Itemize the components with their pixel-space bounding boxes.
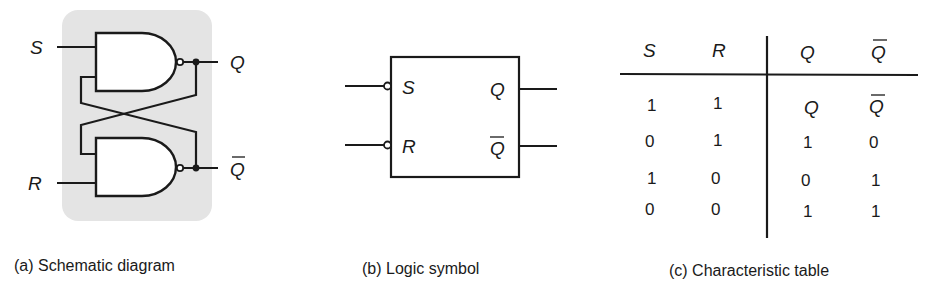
nand-gate-bottom — [96, 138, 176, 196]
q-pin-label: Q — [490, 79, 505, 100]
caption-logic-symbol: (b) Logic symbol — [362, 260, 479, 277]
cell-q: 1 — [803, 133, 812, 152]
logic-symbol: S R Q Q (b) Logic symbol — [345, 57, 557, 277]
cell-r: 1 — [713, 131, 722, 150]
table-row: 0 0 1 1 — [645, 200, 880, 221]
r-input-label: R — [28, 173, 42, 194]
table-header-s: S — [643, 40, 656, 61]
caption-characteristic-table: (c) Characteristic table — [669, 262, 829, 279]
cell-q-bar: 1 — [871, 202, 880, 221]
cell-s: 0 — [645, 200, 654, 219]
cell-s: 1 — [647, 96, 656, 115]
cell-q: 0 — [801, 171, 810, 190]
cell-q: 1 — [803, 202, 812, 221]
cell-s: 1 — [647, 169, 656, 188]
s-pin-label: S — [402, 77, 415, 98]
r-pin-label: R — [402, 136, 416, 157]
s-active-low-bubble — [384, 83, 391, 90]
cell-r: 0 — [711, 200, 720, 219]
cell-q-bar: 1 — [871, 171, 880, 190]
r-active-low-bubble — [384, 142, 391, 149]
q-bar-output-label: Q — [230, 159, 245, 180]
table-header-r: R — [712, 40, 726, 61]
inverter-bubble-top — [177, 59, 183, 65]
table-row: 1 0 0 1 — [647, 169, 880, 190]
logic-symbol-box — [391, 57, 519, 177]
characteristic-table: S R Q Q 1 1 Q Q 0 1 1 0 1 0 0 1 0 0 — [620, 36, 918, 279]
cell-q-bar: 0 — [869, 133, 878, 152]
s-input-label: S — [30, 37, 43, 58]
cell-s: 0 — [645, 132, 654, 151]
cell-q: Q — [804, 97, 819, 118]
inverter-bubble-bottom — [177, 165, 183, 171]
q-output-label: Q — [230, 52, 245, 73]
table-header-q-bar: Q — [871, 42, 886, 63]
table-header-rule — [620, 74, 918, 75]
sr-latch-figure: S R Q Q (a) Schematic diagram S R Q Q (b… — [0, 0, 933, 301]
cell-r: 1 — [713, 94, 722, 113]
table-row: 0 1 1 0 — [645, 131, 878, 152]
q-bar-pin-label: Q — [490, 138, 505, 159]
schematic-diagram: S R Q Q (a) Schematic diagram — [14, 10, 245, 274]
cell-r: 0 — [711, 169, 720, 188]
nand-gate-top — [96, 33, 176, 91]
caption-schematic: (a) Schematic diagram — [14, 257, 175, 274]
cell-q-bar: Q — [869, 96, 884, 117]
table-header-q: Q — [800, 42, 815, 63]
